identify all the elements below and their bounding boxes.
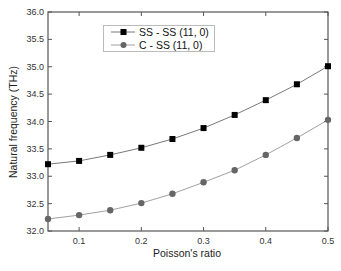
square-marker-icon: [325, 63, 331, 69]
square-marker-icon: [76, 158, 82, 164]
series-line: [48, 120, 328, 219]
y-tick-label: 33.5: [26, 144, 44, 154]
square-marker-icon: [138, 145, 144, 151]
x-tick-label: 0.4: [260, 236, 273, 246]
circle-marker-icon: [169, 191, 175, 197]
circle-marker-icon: [263, 152, 269, 158]
circle-marker-icon: [45, 216, 51, 222]
x-tick-label: 0.1: [73, 236, 86, 246]
y-tick-label: 36.0: [26, 7, 44, 17]
square-marker-icon: [169, 136, 175, 142]
circle-marker-icon: [138, 200, 144, 206]
x-tick-label: 0.5: [322, 236, 335, 246]
y-tick-label: 32.0: [26, 226, 44, 236]
square-marker-icon: [294, 81, 300, 87]
circle-marker-icon: [200, 179, 206, 185]
y-tick-label: 34.0: [26, 117, 44, 127]
series-line: [48, 66, 328, 164]
y-axis-title: Natural frequency (THz): [7, 66, 19, 178]
circle-marker-icon: [121, 42, 127, 48]
legend: SS - SS (11, 0) C - SS (11, 0): [104, 26, 215, 52]
square-marker-icon: [107, 152, 113, 158]
x-tick-label: 0.2: [135, 236, 148, 246]
y-tick-label: 33.0: [26, 171, 44, 181]
circle-marker-icon: [294, 135, 300, 141]
y-tick-label: 32.5: [26, 199, 44, 209]
circle-marker-icon: [325, 117, 331, 123]
square-marker-icon: [263, 97, 269, 103]
square-marker-icon: [45, 161, 51, 167]
x-axis-title: Poisson's ratio: [153, 247, 221, 259]
square-marker-icon: [201, 125, 207, 131]
series-layer: [45, 63, 331, 222]
circle-marker-icon: [231, 167, 237, 173]
square-marker-icon: [121, 29, 127, 35]
line-chart: 0.10.20.30.40.5 32.032.533.033.534.034.5…: [0, 0, 341, 271]
circle-marker-icon: [76, 212, 82, 218]
circle-marker-icon: [107, 207, 113, 213]
y-tick-label: 35.0: [26, 62, 44, 72]
y-tick-label: 34.5: [26, 89, 44, 99]
square-marker-icon: [232, 112, 238, 118]
x-tick-label: 0.3: [197, 236, 210, 246]
y-tick-label: 35.5: [26, 34, 44, 44]
legend-label-c-ss: C - SS (11, 0): [139, 39, 202, 51]
legend-label-ss-ss: SS - SS (11, 0): [139, 26, 209, 38]
